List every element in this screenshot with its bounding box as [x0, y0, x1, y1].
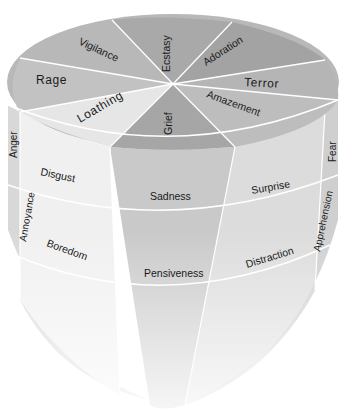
label-anger: Anger [8, 131, 19, 158]
label-grief: Grief [162, 112, 174, 135]
label-fear: Fear [327, 141, 338, 162]
label-terror: Terror [244, 75, 280, 91]
label-pensiveness: Pensiveness [144, 267, 204, 279]
label-ecstasy: Ecstasy [160, 34, 172, 72]
label-sadness: Sadness [150, 190, 191, 202]
label-rage: Rage [36, 73, 67, 87]
emotion-cone-diagram: Ecstasy Adoration Terror Amazement Grief… [0, 0, 347, 413]
